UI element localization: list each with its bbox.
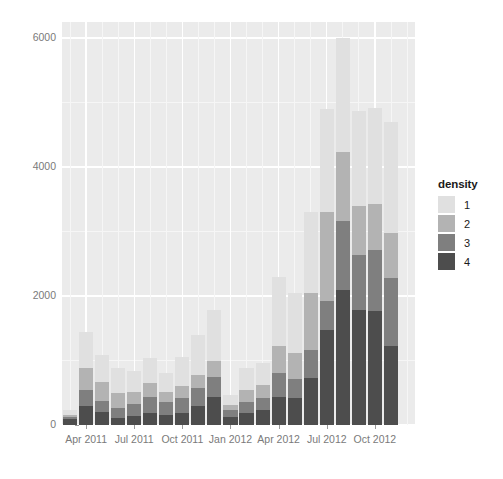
bar-stack: [239, 368, 253, 425]
bar-segment-density-3: [304, 350, 318, 378]
bar-stack: [368, 108, 382, 425]
bar-stack: [272, 277, 286, 425]
legend-swatch: [438, 253, 455, 270]
bar-segment-density-3: [159, 402, 173, 415]
x-axis-tick-label: Apr 2011: [65, 433, 107, 445]
bar-stack: [191, 335, 205, 425]
y-axis-tick-label: 0: [22, 419, 56, 430]
bar-segment-density-4: [159, 415, 173, 425]
legend-item[interactable]: 3: [438, 233, 500, 252]
x-axis-tick-label: Oct 2011: [161, 433, 203, 445]
bar-segment-density-1: [143, 358, 157, 383]
bar-segment-density-1: [63, 410, 77, 415]
legend-swatch: [438, 196, 455, 213]
x-axis-tick-mark: [327, 425, 328, 429]
legend-item[interactable]: 1: [438, 195, 500, 214]
bar-segment-density-3: [191, 388, 205, 407]
bar-segment-density-4: [384, 346, 398, 425]
bar-segment-density-1: [175, 357, 189, 387]
bar-segment-density-4: [95, 412, 109, 425]
bar-segment-density-2: [143, 383, 157, 397]
bar-segment-density-4: [368, 311, 382, 425]
bar-segment-density-1: [320, 109, 334, 212]
bar-stack: [111, 368, 125, 425]
bar-segment-density-1: [79, 332, 93, 368]
bar-segment-density-2: [320, 212, 334, 300]
bar-stack: [159, 373, 173, 425]
legend-swatch: [438, 215, 455, 232]
bar-segment-density-4: [239, 413, 253, 425]
bar-segment-density-2: [272, 346, 286, 373]
bar-segment-density-2: [368, 204, 382, 250]
bar-segment-density-1: [288, 293, 302, 353]
bar-segment-density-2: [239, 390, 253, 402]
bar-segment-density-1: [352, 111, 366, 206]
bar-segment-density-3: [352, 255, 366, 310]
bar-segment-density-3: [336, 221, 350, 291]
bar-segment-density-1: [207, 310, 221, 361]
bar-segment-density-2: [127, 392, 141, 404]
bar-segment-density-4: [272, 397, 286, 425]
bar-segment-density-2: [175, 386, 189, 398]
bar-segment-density-2: [63, 415, 77, 417]
bar-segment-density-4: [143, 413, 157, 425]
bar-segment-density-2: [111, 393, 125, 407]
x-axis-tick-label: Oct 2012: [354, 433, 397, 445]
bar-segment-density-3: [223, 410, 237, 417]
bar-segment-density-1: [127, 371, 141, 392]
bar-stack: [95, 355, 109, 425]
x-axis-tick-mark: [86, 425, 87, 429]
bar-segment-density-3: [320, 301, 334, 331]
legend-title: density: [438, 178, 500, 190]
bar-segment-density-1: [304, 212, 318, 293]
bar-segment-density-2: [256, 385, 270, 398]
legend-item-label: 2: [464, 218, 470, 230]
legend-items: 1234: [438, 195, 500, 271]
bar-segment-density-4: [320, 330, 334, 425]
bar-segment-density-3: [384, 278, 398, 346]
bar-stack: [352, 111, 366, 425]
bar-segment-density-4: [352, 310, 366, 425]
bar-stack: [223, 395, 237, 425]
bar-segment-density-3: [79, 390, 93, 406]
bar-segment-density-4: [304, 378, 318, 425]
bar-segment-density-2: [352, 206, 366, 255]
legend-item-label: 1: [464, 199, 470, 211]
bar-segment-density-2: [79, 368, 93, 389]
bar-segment-density-4: [288, 398, 302, 425]
bar-segment-density-1: [256, 363, 270, 385]
bars-layer: [62, 22, 415, 425]
bar-stack: [320, 109, 334, 425]
bar-segment-density-3: [256, 398, 270, 410]
x-axis-tick-mark: [230, 425, 231, 429]
bar-segment-density-3: [175, 398, 189, 413]
x-axis: Apr 2011Jul 2011Oct 2011Jan 2012Apr 2012…: [62, 425, 415, 479]
bar-stack: [127, 371, 141, 425]
bar-segment-density-1: [336, 38, 350, 152]
bar-segment-density-4: [127, 416, 141, 425]
legend-swatch: [438, 234, 455, 251]
x-axis-tick-label: Apr 2012: [257, 433, 300, 445]
bar-segment-density-4: [207, 397, 221, 425]
legend-item[interactable]: 4: [438, 252, 500, 271]
bar-segment-density-1: [191, 335, 205, 374]
bar-segment-density-3: [127, 404, 141, 416]
bar-stack: [143, 358, 157, 425]
x-axis-tick-label: Jul 2011: [115, 433, 154, 445]
bar-segment-density-2: [159, 392, 173, 402]
plot-panel: [62, 22, 415, 425]
legend-item-label: 4: [464, 256, 470, 268]
bar-segment-density-1: [223, 395, 237, 405]
bar-segment-density-4: [336, 290, 350, 425]
x-axis-tick-mark: [279, 425, 280, 429]
x-axis-tick-label: Jul 2012: [307, 433, 347, 445]
bar-segment-density-3: [368, 250, 382, 311]
bar-segment-density-2: [288, 353, 302, 379]
legend-item[interactable]: 2: [438, 214, 500, 233]
bar-stack: [207, 310, 221, 425]
x-axis-tick-mark: [182, 425, 183, 429]
bar-stack: [288, 293, 302, 425]
bar-stack: [336, 38, 350, 425]
bar-segment-density-4: [175, 413, 189, 425]
legend: density 1234: [438, 178, 500, 271]
